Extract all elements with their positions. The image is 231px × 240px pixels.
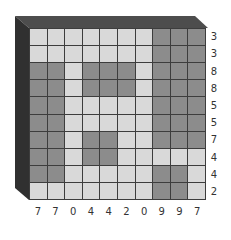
grid-cell[interactable]: [100, 166, 117, 182]
grid-cell[interactable]: [136, 46, 153, 62]
grid-cell[interactable]: [48, 29, 65, 45]
grid-cell[interactable]: [136, 80, 153, 96]
grid-cell[interactable]: [136, 166, 153, 182]
grid-cell[interactable]: [83, 29, 100, 45]
grid-cell[interactable]: [136, 97, 153, 113]
grid-cell[interactable]: [30, 46, 47, 62]
grid-cell[interactable]: [83, 115, 100, 131]
grid-cell[interactable]: [188, 166, 205, 182]
grid-cell[interactable]: [100, 183, 117, 199]
grid-cell[interactable]: [171, 63, 188, 79]
grid-cell[interactable]: [153, 183, 170, 199]
grid-cell[interactable]: [118, 46, 135, 62]
grid-cell[interactable]: [100, 115, 117, 131]
grid-cell[interactable]: [188, 29, 205, 45]
grid-cell[interactable]: [171, 80, 188, 96]
grid-cell[interactable]: [65, 80, 82, 96]
grid-cell[interactable]: [83, 149, 100, 165]
grid-cell[interactable]: [118, 63, 135, 79]
grid-cell[interactable]: [48, 166, 65, 182]
grid-cell[interactable]: [30, 166, 47, 182]
grid-cell[interactable]: [188, 132, 205, 148]
grid-cell[interactable]: [83, 80, 100, 96]
grid-cell[interactable]: [171, 183, 188, 199]
grid-cell[interactable]: [83, 63, 100, 79]
grid-cell[interactable]: [65, 46, 82, 62]
grid-cell[interactable]: [136, 132, 153, 148]
grid-cell[interactable]: [118, 29, 135, 45]
grid-cell[interactable]: [48, 63, 65, 79]
grid-cell[interactable]: [48, 183, 65, 199]
grid-cell[interactable]: [100, 29, 117, 45]
grid-cell[interactable]: [153, 132, 170, 148]
grid-cell[interactable]: [65, 149, 82, 165]
grid-cell[interactable]: [65, 166, 82, 182]
grid-cell[interactable]: [153, 80, 170, 96]
grid-cell[interactable]: [100, 149, 117, 165]
grid-cell[interactable]: [48, 149, 65, 165]
grid-cell[interactable]: [171, 132, 188, 148]
grid-cell[interactable]: [65, 29, 82, 45]
grid-cell[interactable]: [30, 80, 47, 96]
grid-cell[interactable]: [171, 149, 188, 165]
grid-cell[interactable]: [118, 97, 135, 113]
grid-cell[interactable]: [65, 115, 82, 131]
grid-cell[interactable]: [65, 132, 82, 148]
grid-cell[interactable]: [48, 115, 65, 131]
grid-cell[interactable]: [83, 166, 100, 182]
grid-cell[interactable]: [136, 29, 153, 45]
grid-cell[interactable]: [171, 115, 188, 131]
grid-cell[interactable]: [30, 132, 47, 148]
grid-cell[interactable]: [153, 29, 170, 45]
grid-cell[interactable]: [153, 97, 170, 113]
grid-cell[interactable]: [100, 97, 117, 113]
grid-cell[interactable]: [100, 46, 117, 62]
grid-cell[interactable]: [153, 149, 170, 165]
grid-cell[interactable]: [48, 132, 65, 148]
grid-cell[interactable]: [65, 97, 82, 113]
grid-cell[interactable]: [171, 29, 188, 45]
grid-cell[interactable]: [30, 115, 47, 131]
grid-cell[interactable]: [100, 63, 117, 79]
grid-cell[interactable]: [65, 183, 82, 199]
grid-cell[interactable]: [188, 63, 205, 79]
grid-cell[interactable]: [153, 63, 170, 79]
grid-cell[interactable]: [30, 97, 47, 113]
grid-cell[interactable]: [30, 149, 47, 165]
grid-cell[interactable]: [118, 132, 135, 148]
grid-cell[interactable]: [48, 46, 65, 62]
grid-cell[interactable]: [136, 63, 153, 79]
grid-cell[interactable]: [100, 80, 117, 96]
grid-cell[interactable]: [136, 183, 153, 199]
grid-cell[interactable]: [118, 166, 135, 182]
grid-cell[interactable]: [188, 149, 205, 165]
grid-cell[interactable]: [188, 115, 205, 131]
grid-cell[interactable]: [171, 166, 188, 182]
grid-cell[interactable]: [118, 183, 135, 199]
grid-cell[interactable]: [30, 29, 47, 45]
grid-cell[interactable]: [118, 115, 135, 131]
grid-cell[interactable]: [30, 63, 47, 79]
grid-cell[interactable]: [83, 132, 100, 148]
grid-cell[interactable]: [48, 97, 65, 113]
grid-cell[interactable]: [153, 115, 170, 131]
grid-cell[interactable]: [48, 80, 65, 96]
grid-cell[interactable]: [83, 183, 100, 199]
grid-cell[interactable]: [100, 132, 117, 148]
grid-cell[interactable]: [153, 46, 170, 62]
grid-cell[interactable]: [188, 183, 205, 199]
grid-cell[interactable]: [188, 46, 205, 62]
grid-cell[interactable]: [30, 183, 47, 199]
grid-cell[interactable]: [153, 166, 170, 182]
grid-cell[interactable]: [118, 80, 135, 96]
grid-cell[interactable]: [118, 149, 135, 165]
grid-cell[interactable]: [136, 149, 153, 165]
grid-cell[interactable]: [83, 97, 100, 113]
grid-cell[interactable]: [65, 63, 82, 79]
grid-cell[interactable]: [83, 46, 100, 62]
grid-cell[interactable]: [136, 115, 153, 131]
grid-cell[interactable]: [171, 97, 188, 113]
grid-cell[interactable]: [188, 80, 205, 96]
grid-cell[interactable]: [188, 97, 205, 113]
grid-cell[interactable]: [171, 46, 188, 62]
